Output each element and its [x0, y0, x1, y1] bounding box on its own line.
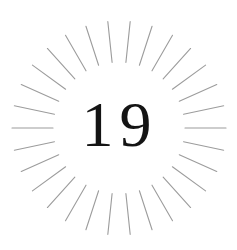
sunburst-ray [47, 177, 74, 207]
sunburst-ray [86, 191, 99, 230]
sunburst-ray [32, 65, 65, 89]
sunburst-ray [126, 194, 130, 235]
sunburst-ray [172, 65, 205, 89]
badge-number: 19 [1, 93, 237, 157]
sunburst-ray [108, 194, 112, 235]
sunburst-ray [86, 26, 99, 65]
sunburst-ray [139, 26, 152, 65]
sunburst-ray [66, 35, 87, 70]
sunburst-ray [163, 177, 190, 207]
sunburst-ray [179, 155, 216, 172]
sunburst-ray [108, 22, 112, 63]
sunburst-ray [32, 167, 65, 191]
sunburst-badge: 19 [0, 0, 237, 250]
sunburst-ray [47, 48, 74, 78]
sunburst-ray [21, 155, 58, 172]
sunburst-ray [139, 191, 152, 230]
sunburst-ray [66, 185, 87, 221]
sunburst-ray [152, 185, 173, 221]
sunburst-ray [163, 48, 190, 78]
sunburst-ray [152, 35, 173, 70]
sunburst-ray [126, 22, 130, 63]
sunburst-ray [172, 167, 205, 191]
